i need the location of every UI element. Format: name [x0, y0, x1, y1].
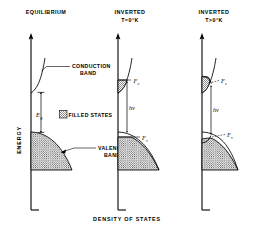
panel-inverted-t0-header-line2: T=0°K — [121, 17, 139, 23]
diagram-canvas: EQUILIBRIUM ENERGY CONDUCTION BAND E g — [0, 0, 253, 231]
quasi-fermi-valence-subscript-tgt0: v — [231, 135, 233, 140]
conduction-band-label-line2: BAND — [80, 70, 96, 76]
conduction-band-curve-equilibrium — [31, 58, 45, 93]
legend-swatch-filled-states — [60, 111, 68, 119]
panel-inverted-tgt0-header-line2: T>0°K — [205, 17, 223, 23]
panel-inverted-t-greater-zero: INVERTED T>0°K F c hν — [199, 9, 238, 210]
panel-inverted-tgt0-header-line1: INVERTED — [199, 9, 230, 15]
y-axis-label: ENERGY — [16, 126, 22, 154]
valence-band-leader — [62, 148, 96, 152]
panel-inverted-t-equals-zero: INVERTED T=0°K F c hν F v — [115, 9, 159, 210]
valence-band-filled-inverted-tgt0 — [202, 138, 238, 170]
bandgap-subscript: g — [40, 115, 43, 120]
panel-inverted-t0-header-line1: INVERTED — [115, 9, 146, 15]
band-diagram-figure: EQUILIBRIUM ENERGY CONDUCTION BAND E g — [0, 0, 253, 231]
conduction-band-leader — [42, 67, 71, 72]
panel-equilibrium: EQUILIBRIUM ENERGY CONDUCTION BAND E g — [16, 9, 125, 210]
legend-label-filled-states: FILLED STATES — [69, 112, 113, 118]
quasi-fermi-conduction-subscript-t0: c — [138, 81, 140, 86]
x-axis-label: DENSITY OF STATES — [93, 216, 161, 222]
quasi-fermi-conduction-subscript-tgt0: c — [225, 81, 227, 86]
valence-band-filled-inverted-t0 — [118, 137, 159, 170]
photon-energy-label-t0: hν — [129, 104, 135, 111]
quasi-fermi-valence-subscript-t0: v — [146, 138, 148, 143]
conduction-filled-states-inverted-t0 — [118, 80, 127, 93]
conduction-band-label-line1: CONDUCTION — [72, 63, 111, 69]
photon-energy-label-tgt0: hν — [213, 106, 219, 113]
panel-equilibrium-header-line1: EQUILIBRIUM — [26, 9, 67, 15]
